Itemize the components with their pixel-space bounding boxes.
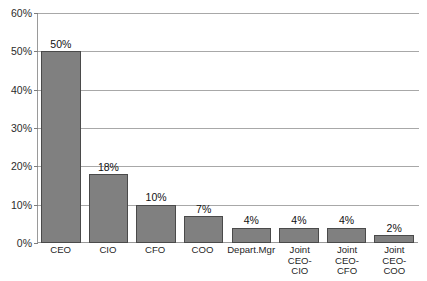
bar-value-label: 2% xyxy=(370,223,418,234)
bar xyxy=(184,216,224,243)
bar xyxy=(327,228,367,243)
bar-chart: 0%10%20%30%40%50%60% 50%18%10%7%4%4%4%2%… xyxy=(0,0,427,281)
bar xyxy=(89,174,129,243)
x-axis-label-line: CFO xyxy=(133,245,178,256)
x-axis-label-line: CIO xyxy=(85,245,130,256)
x-axis-label-line: Joint CEO- xyxy=(324,245,369,266)
bar xyxy=(279,228,319,243)
clipped-caption xyxy=(4,273,304,281)
x-axis-labels: CEOCIOCFOCOODepart.MgrJoint CEO-CIOJoint… xyxy=(37,245,418,277)
bar-value-label: 50% xyxy=(37,39,85,50)
y-axis-tick-label: 0% xyxy=(0,238,32,249)
bar xyxy=(136,205,176,243)
x-axis-label: Joint CEO-CFO xyxy=(323,245,370,277)
x-axis-label-line: Depart.Mgr xyxy=(227,245,275,256)
x-axis-label-line: COO xyxy=(180,245,225,256)
bar-slot: 4% xyxy=(323,13,371,243)
bar-value-label: 10% xyxy=(132,192,180,203)
bar-slot: 50% xyxy=(37,13,85,243)
bar-value-label: 4% xyxy=(323,215,371,226)
y-axis-tick-label: 20% xyxy=(0,161,32,172)
y-axis-tick-label: 10% xyxy=(0,199,32,210)
x-axis-label-line: COO xyxy=(372,266,417,277)
x-axis-label-line: CEO xyxy=(38,245,83,256)
y-axis-tick xyxy=(34,243,38,244)
y-axis-tick-label: 60% xyxy=(0,8,32,19)
bar-value-label: 18% xyxy=(85,162,133,173)
y-axis-tick-label: 50% xyxy=(0,46,32,57)
bar-value-label: 4% xyxy=(228,215,276,226)
bar xyxy=(41,51,81,243)
x-axis-label: Joint CEO-CIO xyxy=(276,245,323,277)
x-axis-label-line: Joint CEO- xyxy=(277,245,322,266)
x-axis-label-line: Joint CEO- xyxy=(372,245,417,266)
x-axis-label: CIO xyxy=(84,245,131,277)
x-axis-label: COO xyxy=(179,245,226,277)
x-axis-label: CEO xyxy=(37,245,84,277)
x-axis-label: Depart.Mgr xyxy=(226,245,276,277)
y-axis-tick-label: 40% xyxy=(0,84,32,95)
bars-layer: 50%18%10%7%4%4%4%2% xyxy=(37,13,418,243)
bar-slot: 2% xyxy=(370,13,418,243)
bar-slot: 4% xyxy=(228,13,276,243)
bar xyxy=(374,235,414,243)
x-axis-label: Joint CEO-COO xyxy=(371,245,418,277)
bar-slot: 18% xyxy=(85,13,133,243)
bar-slot: 7% xyxy=(180,13,228,243)
x-axis-label: CFO xyxy=(132,245,179,277)
y-axis-tick-label: 30% xyxy=(0,123,32,134)
bar-value-label: 7% xyxy=(180,204,228,215)
bar-slot: 10% xyxy=(132,13,180,243)
bar-slot: 4% xyxy=(275,13,323,243)
bar-value-label: 4% xyxy=(275,215,323,226)
x-axis-label-line: CFO xyxy=(324,266,369,277)
bar xyxy=(232,228,272,243)
